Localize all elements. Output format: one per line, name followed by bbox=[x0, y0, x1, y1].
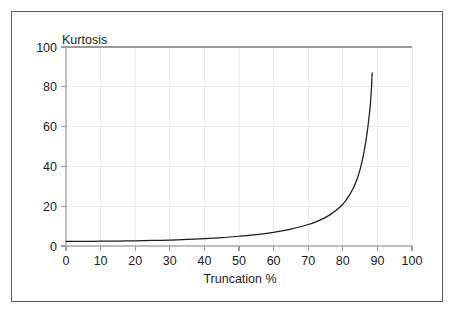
x-tick-label: 20 bbox=[128, 254, 142, 268]
y-tick-label: 40 bbox=[43, 160, 57, 174]
y-tick-label: 0 bbox=[50, 240, 57, 254]
chart-figure: 0102030405060708090100 020406080100 Kurt… bbox=[0, 0, 460, 318]
gridlines bbox=[66, 47, 412, 246]
x-tick-label: 0 bbox=[63, 254, 70, 268]
x-tick-label: 10 bbox=[94, 254, 108, 268]
tick-marks bbox=[61, 47, 412, 251]
x-tick-label: 60 bbox=[267, 254, 281, 268]
x-tick-label: 100 bbox=[402, 254, 423, 268]
x-tick-label: 70 bbox=[301, 254, 315, 268]
y-tick-label: 100 bbox=[36, 41, 57, 55]
chart-plot: 0102030405060708090100 020406080100 Kurt… bbox=[0, 0, 460, 318]
x-axis-title: Truncation % bbox=[203, 272, 276, 286]
y-tick-label: 20 bbox=[43, 200, 57, 214]
x-tick-label: 80 bbox=[336, 254, 350, 268]
kurtosis-curve bbox=[66, 73, 372, 242]
x-tick-label: 90 bbox=[370, 254, 384, 268]
chart-title: Kurtosis bbox=[62, 33, 107, 47]
x-tick-label: 50 bbox=[232, 254, 246, 268]
y-tick-label: 60 bbox=[43, 120, 57, 134]
x-tick-label: 30 bbox=[163, 254, 177, 268]
y-axis-tick-labels: 020406080100 bbox=[36, 41, 57, 254]
x-tick-label: 40 bbox=[197, 254, 211, 268]
x-axis-tick-labels: 0102030405060708090100 bbox=[63, 254, 423, 268]
y-tick-label: 80 bbox=[43, 80, 57, 94]
